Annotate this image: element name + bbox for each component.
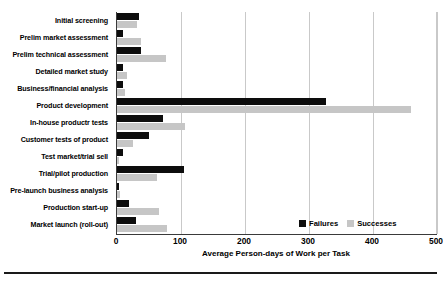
bar-failures bbox=[117, 64, 123, 71]
bar-failures bbox=[117, 166, 184, 173]
category-label: Detailed market study bbox=[0, 68, 108, 76]
bar-failures bbox=[117, 183, 119, 190]
bar-failures bbox=[117, 98, 326, 105]
bar-group bbox=[117, 166, 437, 182]
legend-label: Failures bbox=[309, 219, 338, 228]
bar-successes bbox=[117, 72, 127, 79]
category-label: Product development bbox=[0, 102, 108, 110]
bar-group bbox=[117, 115, 437, 131]
category-label: Initial screening bbox=[0, 17, 108, 25]
bar-successes bbox=[117, 123, 185, 130]
bar-group bbox=[117, 183, 437, 199]
bar-successes bbox=[117, 208, 159, 215]
x-tick-label: 0 bbox=[114, 236, 119, 246]
bar-successes bbox=[117, 140, 133, 147]
category-label: Business/financial analysis bbox=[0, 85, 108, 93]
x-tick-label: 500 bbox=[429, 236, 443, 246]
bar-group bbox=[117, 200, 437, 216]
bar-failures bbox=[117, 47, 141, 54]
category-axis-labels: Initial screeningPrelim market assessmen… bbox=[0, 12, 112, 234]
bar-failures bbox=[117, 115, 163, 122]
bar-failures bbox=[117, 132, 149, 139]
bar-group bbox=[117, 81, 437, 97]
bar-failures bbox=[117, 30, 123, 37]
failures-swatch bbox=[299, 220, 306, 227]
bar-successes bbox=[117, 89, 125, 96]
x-tick-label: 100 bbox=[173, 236, 187, 246]
category-label: In-house productr tests bbox=[0, 119, 108, 127]
bar-group bbox=[117, 149, 437, 165]
bar-failures bbox=[117, 200, 129, 207]
chart-legend: FailuresSuccesses bbox=[299, 217, 396, 230]
bar-successes bbox=[117, 106, 411, 113]
bar-failures bbox=[117, 149, 123, 156]
page-bottom-rule bbox=[4, 272, 437, 274]
category-label: Trial/pilot production bbox=[0, 170, 108, 178]
x-axis-title: Average Person-days of Work per Task bbox=[116, 249, 436, 258]
bar-group bbox=[117, 98, 437, 114]
legend-item-failures: Failures bbox=[299, 219, 338, 228]
category-label: Prelim market assessment bbox=[0, 34, 108, 42]
category-label: Test market/trial sell bbox=[0, 153, 108, 161]
x-tick-label: 200 bbox=[237, 236, 251, 246]
bar-successes bbox=[117, 174, 157, 181]
bar-successes bbox=[117, 157, 119, 164]
x-tick-label: 400 bbox=[365, 236, 379, 246]
bar-group bbox=[117, 30, 437, 46]
bar-failures bbox=[117, 217, 136, 224]
category-label: Prelim technical assessment bbox=[0, 51, 108, 59]
category-label: Market launch (roll-out) bbox=[0, 221, 108, 229]
bar-successes bbox=[117, 21, 137, 28]
plot-area bbox=[116, 12, 437, 235]
bar-group bbox=[117, 132, 437, 148]
bar-failures bbox=[117, 81, 123, 88]
bar-failures bbox=[117, 13, 139, 20]
bar-group bbox=[117, 13, 437, 29]
bar-successes bbox=[117, 225, 167, 232]
successes-swatch bbox=[347, 220, 354, 227]
category-label: Pre-launch business analysis bbox=[0, 187, 108, 195]
category-label: Production start-up bbox=[0, 204, 108, 212]
legend-label: Successes bbox=[357, 219, 396, 228]
bar-successes bbox=[117, 55, 166, 62]
legend-item-successes: Successes bbox=[347, 219, 396, 228]
bar-successes bbox=[117, 191, 120, 198]
bar-successes bbox=[117, 38, 141, 45]
x-axis-tick-labels: 0100200300400500 bbox=[116, 236, 436, 248]
gridline-500 bbox=[437, 12, 438, 234]
bar-group bbox=[117, 47, 437, 63]
bar-group bbox=[117, 64, 437, 80]
x-tick-label: 300 bbox=[301, 236, 315, 246]
category-label: Customer tests of product bbox=[0, 136, 108, 144]
